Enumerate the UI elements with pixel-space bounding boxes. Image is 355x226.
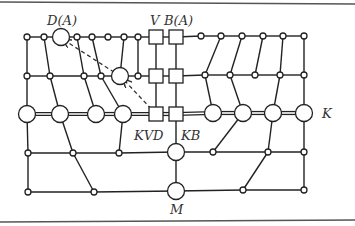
small-node xyxy=(98,73,104,79)
label-v: V xyxy=(150,13,161,28)
small-node xyxy=(210,149,216,155)
network-diagram: D(A) V B(A) KVD KB K M xyxy=(0,0,355,226)
small-node xyxy=(277,72,283,78)
small-node xyxy=(70,150,76,156)
small-node xyxy=(81,73,87,79)
small-node xyxy=(25,150,31,156)
large-node xyxy=(53,29,70,46)
small-node xyxy=(227,72,233,78)
large-node xyxy=(168,183,185,200)
square-node xyxy=(149,30,163,44)
small-node xyxy=(121,34,127,40)
edge xyxy=(205,36,221,75)
label-m: M xyxy=(169,202,184,217)
large-node xyxy=(168,144,185,161)
square-node xyxy=(169,107,183,121)
edge xyxy=(176,190,243,191)
dashed-arrows xyxy=(64,40,156,114)
small-node xyxy=(301,33,307,39)
top-rule xyxy=(0,2,355,4)
small-node xyxy=(25,189,31,195)
small-node xyxy=(239,33,245,39)
large-node xyxy=(296,105,313,122)
small-node xyxy=(135,73,141,79)
label-d-a: D(A) xyxy=(46,13,77,28)
small-node xyxy=(24,73,30,79)
small-node xyxy=(202,72,208,78)
square-node xyxy=(149,69,163,83)
edge xyxy=(94,191,176,192)
small-node xyxy=(89,34,95,40)
small-node xyxy=(135,34,141,40)
small-node xyxy=(91,189,97,195)
small-node xyxy=(198,33,204,39)
small-node xyxy=(301,72,307,78)
small-node xyxy=(301,149,307,155)
square-node xyxy=(149,107,163,121)
small-node xyxy=(41,34,47,40)
large-node xyxy=(205,105,222,122)
large-node xyxy=(265,105,282,122)
edge xyxy=(92,37,101,76)
small-node xyxy=(240,187,246,193)
label-b-a: B(A) xyxy=(163,13,193,28)
large-node xyxy=(235,105,252,122)
edge xyxy=(44,37,50,76)
large-node xyxy=(112,68,129,85)
square-node xyxy=(169,30,183,44)
large-node xyxy=(88,106,105,123)
large-node xyxy=(115,106,132,123)
edge xyxy=(73,153,94,192)
square-node xyxy=(169,69,183,83)
large-node xyxy=(52,106,69,123)
small-node xyxy=(24,34,30,40)
small-node xyxy=(301,187,307,193)
edge xyxy=(230,36,242,75)
small-node xyxy=(265,149,271,155)
small-node xyxy=(74,34,80,40)
edge xyxy=(280,36,283,75)
label-k: K xyxy=(321,106,333,121)
large-node xyxy=(19,106,36,123)
small-node xyxy=(280,33,286,39)
small-node xyxy=(252,72,258,78)
small-node xyxy=(116,150,122,156)
label-kvd: KVD xyxy=(133,128,164,143)
dashed-arrow xyxy=(64,40,120,76)
small-node xyxy=(47,73,53,79)
edge xyxy=(243,152,268,190)
small-node xyxy=(218,33,224,39)
bottom-rule xyxy=(0,220,355,222)
small-node xyxy=(260,33,266,39)
edge xyxy=(255,36,263,75)
label-kb: KB xyxy=(180,128,200,143)
edge xyxy=(77,37,84,76)
small-node xyxy=(105,34,111,40)
